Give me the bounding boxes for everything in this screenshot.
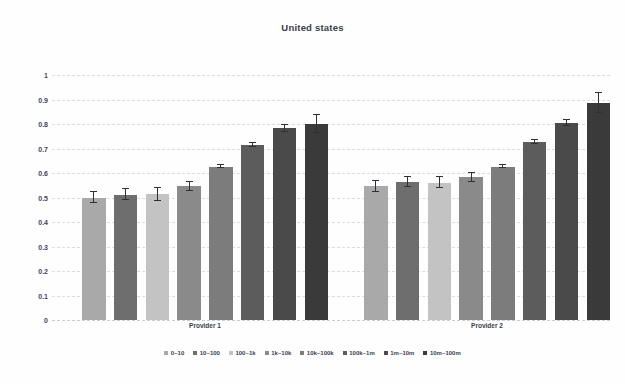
error-bar-cap-top (154, 187, 161, 188)
x-axis-group-label: Provider 1 (189, 322, 221, 329)
bar-column[interactable] (587, 75, 611, 320)
bar-column[interactable] (146, 75, 170, 320)
bar[interactable] (146, 194, 170, 320)
bar-column[interactable] (491, 75, 515, 320)
bar-column[interactable] (364, 75, 388, 320)
bar[interactable] (523, 142, 547, 320)
bar-column[interactable] (114, 75, 138, 320)
legend-label: 100~1k (235, 350, 255, 356)
error-bar-cap-bottom (249, 146, 256, 147)
bar[interactable] (555, 123, 579, 320)
legend-swatch-icon (300, 351, 304, 355)
bar[interactable] (82, 198, 106, 321)
error-bar-cap-bottom (531, 143, 538, 144)
y-axis-tick-label: 0.7 (14, 145, 48, 152)
error-bar-cap-top (372, 180, 379, 181)
gridline (52, 320, 610, 321)
error-bar-cap-bottom (90, 202, 97, 203)
legend-swatch-icon (343, 351, 347, 355)
y-axis-tick-label: 0.2 (14, 268, 48, 275)
legend-item[interactable]: 100~1k (229, 350, 256, 356)
bar[interactable] (114, 195, 138, 320)
legend-item[interactable]: 0~10 (164, 350, 184, 356)
error-bar-cap-top (249, 142, 256, 143)
error-bar-cap-bottom (468, 181, 475, 182)
bar[interactable] (396, 182, 420, 320)
y-axis-tick-label: 0.6 (14, 170, 48, 177)
legend-item[interactable]: 10~100 (193, 350, 220, 356)
error-bar-cap-top (281, 124, 288, 125)
error-bar-cap-top (531, 139, 538, 140)
legend-item[interactable]: 10m~100m (423, 350, 460, 356)
bar-column[interactable] (241, 75, 265, 320)
bar-column[interactable] (555, 75, 579, 320)
plot-area (52, 75, 610, 320)
bar[interactable] (209, 167, 233, 320)
bar[interactable] (241, 145, 265, 320)
error-bar-cap-top (595, 92, 602, 93)
legend-label: 0~10 (171, 350, 185, 356)
y-axis-tick-label: 0.1 (14, 292, 48, 299)
legend-label: 10m~100m (430, 350, 461, 356)
legend-swatch-icon (384, 351, 388, 355)
bars-layer (52, 75, 610, 320)
y-axis-tick-label: 0.5 (14, 194, 48, 201)
legend-label: 10~100 (200, 350, 220, 356)
legend-label: 100k~1m (349, 350, 375, 356)
bar-chart: United states 10.90.80.70.60.50.40.30.20… (0, 0, 625, 384)
chart-legend: 0~1010~100100~1k1k~10k10k~100k100k~1m1m~… (0, 350, 625, 356)
y-axis-tick-label: 0.3 (14, 243, 48, 250)
bar-column[interactable] (82, 75, 106, 320)
bar-column[interactable] (428, 75, 452, 320)
bar[interactable] (459, 177, 483, 320)
bar[interactable] (587, 103, 611, 320)
bar-column[interactable] (523, 75, 547, 320)
legend-swatch-icon (265, 351, 269, 355)
bar-column[interactable] (177, 75, 201, 320)
error-bar-cap-bottom (281, 131, 288, 132)
error-bar-cap-bottom (499, 167, 506, 168)
bar[interactable] (273, 128, 297, 320)
y-axis-tick-label: 0 (14, 317, 48, 324)
legend-swatch-icon (164, 351, 168, 355)
error-bar-cap-top (404, 176, 411, 177)
legend-label: 10k~100k (307, 350, 334, 356)
legend-label: 1m~10m (390, 350, 414, 356)
y-axis: 10.90.80.70.60.50.40.30.20.10 (8, 75, 48, 320)
bar[interactable] (428, 183, 452, 320)
error-bar-cap-bottom (217, 167, 224, 168)
x-axis-group-labels: Provider 1Provider 2 (52, 322, 610, 336)
bar-column[interactable] (209, 75, 233, 320)
bar[interactable] (491, 167, 515, 320)
error-bar-cap-top (90, 191, 97, 192)
error-bar-cap-bottom (122, 199, 129, 200)
error-bar-cap-top (313, 114, 320, 115)
x-axis-group-label: Provider 2 (471, 322, 503, 329)
chart-title: United states (0, 22, 625, 33)
legend-swatch-icon (229, 351, 233, 355)
bar-group (82, 75, 328, 320)
legend-item[interactable]: 10k~100k (300, 350, 333, 356)
error-bar-cap-top (122, 188, 129, 189)
error-bar-cap-bottom (154, 200, 161, 201)
legend-item[interactable]: 100k~1m (343, 350, 375, 356)
bar-column[interactable] (396, 75, 420, 320)
bar-column[interactable] (273, 75, 297, 320)
bar[interactable] (364, 186, 388, 320)
bar[interactable] (305, 124, 329, 320)
error-bar-cap-top (563, 119, 570, 120)
legend-swatch-icon (193, 351, 197, 355)
legend-item[interactable]: 1k~10k (265, 350, 292, 356)
error-bar (598, 93, 599, 114)
bar[interactable] (177, 186, 201, 320)
error-bar-cap-top (499, 164, 506, 165)
y-axis-tick-label: 1 (14, 72, 48, 79)
error-bar-cap-bottom (186, 190, 193, 191)
error-bar-cap-bottom (372, 191, 379, 192)
legend-swatch-icon (423, 351, 427, 355)
legend-item[interactable]: 1m~10m (384, 350, 415, 356)
error-bar-cap-bottom (595, 112, 602, 113)
bar-column[interactable] (305, 75, 329, 320)
bar-column[interactable] (459, 75, 483, 320)
y-axis-tick-label: 0.4 (14, 219, 48, 226)
